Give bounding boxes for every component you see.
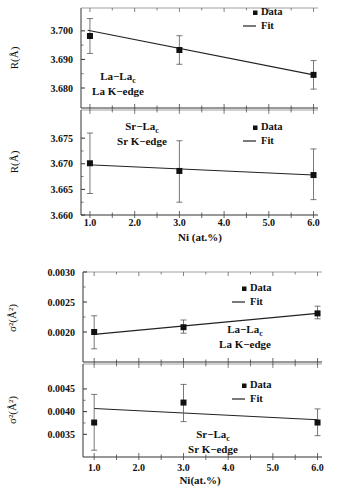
x-tick-label: 2.0: [133, 462, 146, 473]
chart-panel-2: 3.6603.6653.6703.6751.02.03.04.05.06.0Ni…: [8, 110, 320, 244]
legend: DataFit: [232, 379, 272, 404]
data-marker: [311, 172, 317, 178]
y-axis-title: R(Å): [8, 150, 21, 173]
legend-fit-label: Fit: [261, 20, 274, 31]
annotation-pair: Sr−Lac: [196, 428, 230, 443]
data-marker: [311, 72, 317, 78]
annotation-pair: La−Lac: [227, 323, 263, 338]
data-marker: [176, 168, 182, 174]
fit-line: [94, 408, 317, 419]
x-tick-label: 3.0: [173, 217, 186, 228]
data-point: [315, 409, 321, 436]
legend-data-label: Data: [261, 6, 283, 17]
annotation-pair: Sr−Lac: [125, 120, 159, 135]
y-tick-label: 0.0020: [48, 327, 76, 338]
y-tick-label: 3.670: [51, 158, 74, 169]
y-tick-label: 3.675: [51, 133, 74, 144]
x-tick-label: 1.0: [84, 217, 97, 228]
y-tick-label: 3.700: [51, 25, 74, 36]
data-marker: [91, 420, 97, 426]
y-tick-label: 3.660: [51, 210, 74, 221]
data-point: [181, 320, 187, 333]
chart-panel-1: 3.6803.6903.700R(Å)DataFitLa−LacLa K−edg…: [8, 6, 318, 111]
data-point: [176, 36, 182, 65]
legend: DataFit: [232, 282, 272, 307]
data-point: [176, 141, 182, 202]
annotation-edge: Sr K−edge: [188, 443, 238, 455]
data-point: [181, 384, 187, 421]
y-tick-label: 0.0045: [48, 383, 76, 394]
chart-panel-4: 0.00350.00400.00451.02.03.04.05.06.0Ni(a…: [6, 364, 324, 487]
annotation-subscript: c: [226, 434, 230, 443]
data-marker: [315, 420, 321, 426]
legend-data-marker-icon: [253, 11, 258, 16]
data-marker: [176, 47, 182, 53]
data-marker: [91, 329, 97, 335]
x-tick-label: 3.0: [177, 462, 190, 473]
data-marker: [87, 33, 93, 39]
data-marker: [87, 160, 93, 166]
legend-data-marker-icon: [242, 287, 247, 292]
x-tick-label: 5.0: [263, 217, 276, 228]
fit-line: [94, 313, 317, 334]
data-point: [91, 394, 97, 450]
x-axis-title: Ni (at.%): [178, 231, 222, 244]
annotation-edge: La K−edge: [92, 85, 144, 97]
y-axis-title: σ²(Å²): [6, 396, 19, 424]
y-axis-title: σ²(Å²): [6, 304, 19, 332]
legend: DataFit: [243, 6, 283, 31]
legend-data-label: Data: [261, 121, 283, 132]
data-point: [311, 61, 317, 90]
y-tick-label: 3.690: [51, 54, 74, 65]
legend-data-label: Data: [250, 282, 272, 293]
y-tick-label: 0.0025: [48, 297, 76, 308]
data-point: [315, 306, 321, 319]
y-tick-label: 3.680: [51, 83, 74, 94]
legend-fit-label: Fit: [250, 296, 263, 307]
annotation-subscript: c: [155, 126, 159, 135]
data-point: [91, 316, 97, 349]
data-point: [87, 19, 93, 54]
x-axis-title: Ni(at.%): [179, 474, 221, 487]
chart-panel-3: 0.00200.00250.0030σ²(Å²)DataFitLa−LacLa …: [6, 267, 322, 366]
annotation-edge: Sr K−edge: [117, 135, 167, 147]
figure: 3.6803.6903.700R(Å)DataFitLa−LacLa K−edg…: [0, 0, 339, 501]
data-point: [311, 149, 317, 200]
data-marker: [315, 310, 321, 316]
legend-fit-label: Fit: [250, 393, 263, 404]
y-axis-title: R(Å): [8, 46, 21, 69]
annotation-subscript: c: [259, 329, 263, 338]
annotation-edge: La K−edge: [219, 338, 271, 350]
y-tick-label: 0.0030: [48, 267, 76, 278]
x-tick-label: 1.0: [88, 462, 101, 473]
data-marker: [181, 324, 187, 330]
fit-line: [88, 165, 314, 175]
x-tick-label: 2.0: [128, 217, 141, 228]
legend-data-label: Data: [250, 379, 272, 390]
y-tick-label: 0.0040: [48, 406, 76, 417]
y-tick-label: 0.0035: [48, 429, 76, 440]
x-tick-label: 5.0: [267, 462, 280, 473]
legend: DataFit: [243, 121, 283, 146]
y-tick-label: 3.665: [51, 184, 74, 195]
fit-line: [88, 30, 314, 75]
plot-canvas: 3.6803.6903.700R(Å)DataFitLa−LacLa K−edg…: [0, 0, 339, 501]
x-tick-label: 4.0: [218, 217, 231, 228]
annotation-subscript: c: [132, 76, 136, 85]
annotation-pair: La−Lac: [100, 70, 136, 85]
x-tick-label: 6.0: [311, 462, 324, 473]
legend-fit-label: Fit: [261, 135, 274, 146]
data-marker: [181, 400, 187, 406]
x-tick-label: 6.0: [307, 217, 320, 228]
legend-data-marker-icon: [242, 384, 247, 389]
legend-data-marker-icon: [253, 126, 258, 131]
data-point: [87, 133, 93, 193]
x-tick-label: 4.0: [222, 462, 235, 473]
